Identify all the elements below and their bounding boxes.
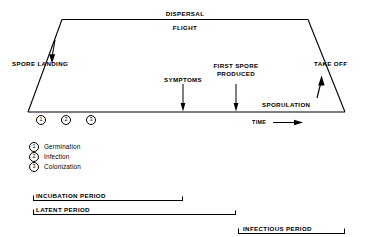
first-spore-arrow-icon <box>234 84 239 112</box>
stage-marker-1: 1 <box>36 115 46 125</box>
legend-marker-3: 3 <box>29 162 39 172</box>
flight-label: FLIGHT <box>173 24 197 32</box>
symptoms-arrow-icon <box>181 84 186 112</box>
legend-label-germination: Germination <box>44 143 80 150</box>
sporulation-label: SPORULATION <box>262 101 310 109</box>
diagram-vector-layer <box>0 0 366 237</box>
time-axis-arrow-icon <box>273 120 303 125</box>
infectious-period-label: INFECTIOUS PERIOD <box>243 225 312 233</box>
disease-cycle-diagram: DISPERSAL FLIGHT SPORE LANDING TAKE OFF … <box>0 0 366 237</box>
legend-label-colonization: Colonization <box>44 163 81 170</box>
incubation-period-label: INCUBATION PERIOD <box>36 192 106 200</box>
stage-marker-3: 3 <box>86 115 96 125</box>
spore-landing-label: SPORE LANDING <box>12 60 68 68</box>
time-axis-label: TIME <box>252 119 266 127</box>
take-off-label: TAKE OFF <box>314 60 347 68</box>
take-off-arrow-icon <box>317 76 325 99</box>
first-spore-label-line1: FIRST SPORE <box>213 62 258 70</box>
legend-label-infection: Infection <box>44 153 70 160</box>
symptoms-label: SYMPTOMS <box>164 76 202 84</box>
legend-marker-1: 1 <box>29 142 39 152</box>
latent-period-label: LATENT PERIOD <box>36 206 90 214</box>
stage-marker-2: 2 <box>61 115 71 125</box>
dispersal-label: DISPERSAL <box>166 10 205 18</box>
legend-marker-2: 2 <box>29 152 39 162</box>
first-spore-label-line2: PRODUCED <box>217 70 255 78</box>
